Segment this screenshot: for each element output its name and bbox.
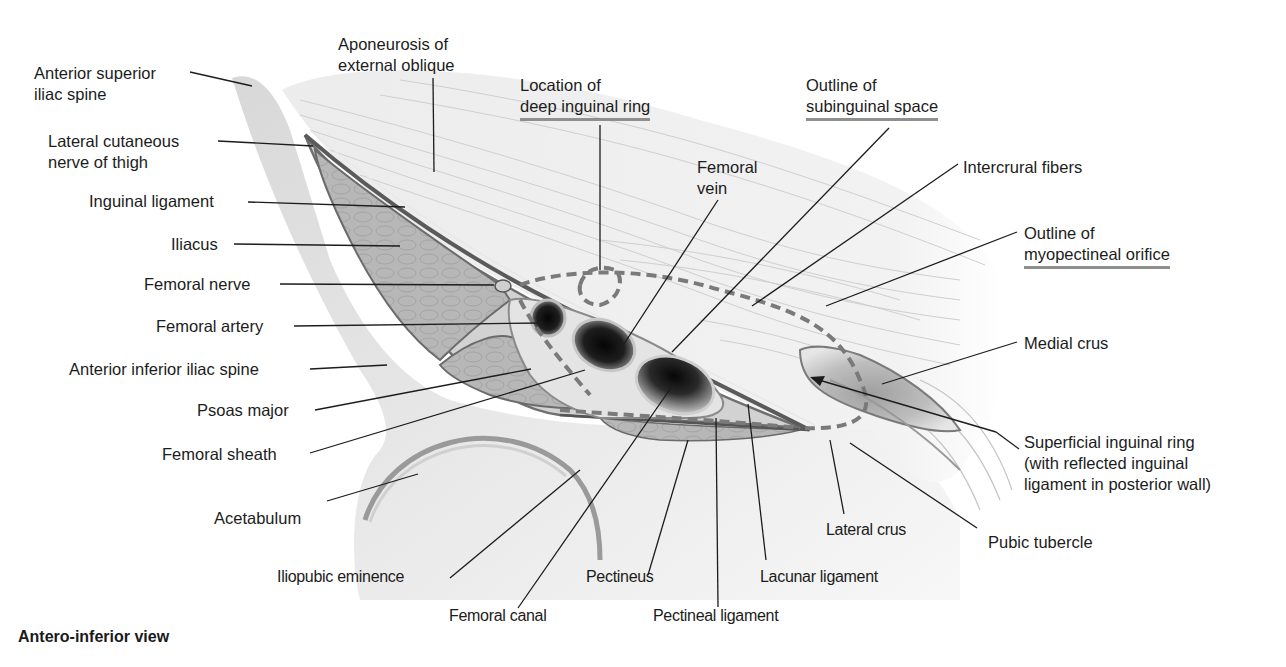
label-inguinal-ligament: Inguinal ligament: [89, 191, 214, 212]
label-femoral-sheath: Femoral sheath: [162, 444, 277, 465]
label-lateral-crus: Lateral crus: [826, 519, 906, 540]
view-caption: Antero-inferior view: [18, 628, 169, 646]
label-iliopubic-eminence: Iliopubic eminence: [277, 566, 404, 587]
label-asis: Anterior superior iliac spine: [34, 63, 156, 105]
label-aponeurosis: Aponeurosis of external oblique: [338, 34, 455, 76]
label-deep-inguinal-ring: Location of deep inguinal ring: [520, 75, 650, 121]
label-femoral-artery: Femoral artery: [156, 316, 263, 337]
label-medial-crus: Medial crus: [1024, 333, 1108, 354]
label-pectineal-ligament: Pectineal ligament: [653, 605, 778, 626]
label-pectineus: Pectineus: [586, 566, 654, 587]
label-femoral-canal: Femoral canal: [449, 605, 546, 626]
label-psoas-major: Psoas major: [197, 400, 289, 421]
label-aiis: Anterior inferior iliac spine: [69, 359, 259, 380]
label-intercrural-fibers: Intercrural fibers: [963, 157, 1082, 178]
femoral-nerve: [495, 280, 511, 292]
label-superficial-inguinal-ring: Superficial inguinal ring (with reflecte…: [1024, 432, 1211, 495]
label-iliacus: Iliacus: [171, 234, 218, 255]
label-myopectineal-orifice: Outline of myopectineal orifice: [1024, 223, 1170, 269]
label-lateral-cutaneous-nerve: Lateral cutaneous nerve of thigh: [48, 131, 179, 173]
label-lacunar-ligament: Lacunar ligament: [760, 566, 878, 587]
label-femoral-nerve: Femoral nerve: [144, 274, 250, 295]
label-subinguinal-space: Outline of subinguinal space: [806, 75, 938, 121]
label-femoral-vein: Femoral vein: [697, 157, 758, 199]
label-acetabulum: Acetabulum: [214, 508, 301, 529]
label-pubic-tubercle: Pubic tubercle: [988, 532, 1093, 553]
